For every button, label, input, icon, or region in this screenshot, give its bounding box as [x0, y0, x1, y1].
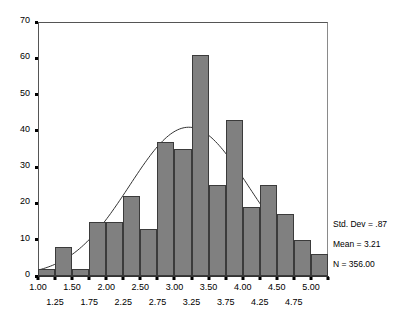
x-axis-tick-label: 2.00: [97, 283, 115, 292]
histogram-bar: [72, 269, 89, 276]
histogram-bar: [174, 149, 191, 276]
x-axis-tick-label: 1.25: [46, 298, 64, 307]
sample-size-label: N = 356.00: [333, 259, 405, 269]
y-axis-tick: 0: [0, 276, 38, 277]
x-axis-tick-mark: [37, 277, 40, 280]
y-axis-tick: 30: [0, 167, 38, 168]
histogram-bar: [277, 214, 294, 276]
x-axis-tick-label: 2.25: [115, 298, 133, 307]
y-axis-tick: 50: [0, 95, 38, 96]
y-axis-tick: 10: [0, 240, 38, 241]
y-axis-tick-label: 30: [20, 161, 30, 170]
x-axis-tick-label: 3.75: [217, 298, 235, 307]
histogram-bar: [243, 207, 260, 276]
x-axis-tick-mark: [292, 277, 295, 280]
x-axis-tick-mark: [241, 277, 244, 280]
x-axis-tick-label: 4.75: [285, 298, 303, 307]
x-axis-tick-mark: [88, 277, 91, 280]
histogram-bar: [294, 240, 311, 276]
x-axis-tick-label: 2.75: [149, 298, 167, 307]
y-axis-tick-label: 20: [20, 197, 30, 206]
x-axis-tick-label: 1.75: [80, 298, 98, 307]
histogram-bar: [89, 222, 106, 276]
mean-label: Mean = 3.21: [333, 239, 405, 249]
x-axis-tick-label: 1.00: [29, 283, 47, 292]
histogram-bar: [260, 185, 277, 276]
x-axis-tick-label: 4.50: [268, 283, 286, 292]
histogram-bar: [209, 185, 226, 276]
x-axis-tick-mark: [156, 277, 159, 280]
x-axis-tick-mark: [224, 277, 227, 280]
x-axis-tick-label: 4.00: [234, 283, 252, 292]
y-axis-tick-label: 70: [20, 16, 30, 25]
x-axis-tick-mark: [309, 277, 312, 280]
y-axis-tick-label: 10: [20, 234, 30, 243]
x-axis-tick-mark: [207, 277, 210, 280]
y-axis-tick: 20: [0, 203, 38, 204]
x-axis-tick-mark: [327, 277, 330, 280]
std-dev-label: Std. Dev = .87: [333, 219, 405, 229]
histogram-chart: 010203040506070 1.001.502.002.503.003.50…: [0, 0, 405, 327]
y-axis-tick-label: 0: [25, 270, 30, 279]
x-axis-tick-mark: [105, 277, 108, 280]
x-axis-tick-mark: [275, 277, 278, 280]
x-axis-tick-label: 1.50: [63, 283, 81, 292]
x-axis-tick-label: 5.00: [302, 283, 320, 292]
statistics-legend: Std. Dev = .87 Mean = 3.21 N = 356.00: [333, 219, 405, 279]
histogram-bar: [157, 142, 174, 276]
y-axis-tick-label: 40: [20, 125, 30, 134]
x-axis-tick-label: 2.50: [132, 283, 150, 292]
x-axis-tick-label: 3.50: [200, 283, 218, 292]
y-axis-tick: 70: [0, 22, 38, 23]
histogram-bar: [192, 55, 209, 276]
x-axis-tick-label: 4.25: [251, 298, 269, 307]
x-axis-tick-mark: [54, 277, 57, 280]
y-axis-tick: 60: [0, 58, 38, 59]
y-axis-tick-label: 50: [20, 89, 30, 98]
histogram-bar: [311, 254, 328, 276]
x-axis-tick-mark: [173, 277, 176, 280]
x-axis-tick-mark: [122, 277, 125, 280]
x-axis-tick-mark: [139, 277, 142, 280]
histogram-bar: [123, 196, 140, 276]
x-axis-tick-label: 3.00: [166, 283, 184, 292]
x-axis-tick-mark: [258, 277, 261, 280]
plot-area: [38, 22, 328, 276]
histogram-bar: [55, 247, 72, 276]
y-axis-tick-label: 60: [20, 52, 30, 61]
x-axis-tick-mark: [190, 277, 193, 280]
x-axis-tick-mark: [71, 277, 74, 280]
y-axis-tick: 40: [0, 131, 38, 132]
x-axis-tick-label: 3.25: [183, 298, 201, 307]
histogram-bar: [226, 120, 243, 276]
histogram-bar: [38, 269, 55, 276]
x-axis-line: [38, 276, 329, 277]
histogram-bar: [106, 222, 123, 276]
histogram-bar: [140, 229, 157, 276]
